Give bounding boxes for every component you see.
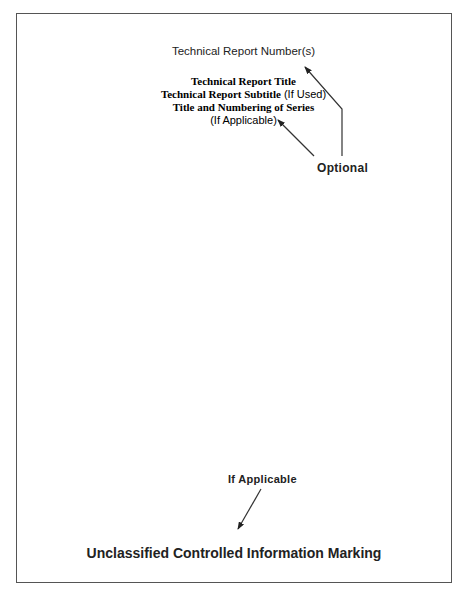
optional-label: Optional xyxy=(317,161,368,175)
report-title: Technical Report Title xyxy=(20,75,467,88)
series-title: Title and Numbering of Series xyxy=(20,101,467,114)
report-subtitle: Technical Report Subtitle xyxy=(161,88,281,100)
if-applicable-label: If Applicable xyxy=(228,473,297,485)
series-note: (If Applicable) xyxy=(20,114,467,127)
report-number-label: Technical Report Number(s) xyxy=(0,45,467,57)
subtitle-note: (If Used) xyxy=(281,88,326,100)
report-subtitle-line: Technical Report Subtitle (If Used) xyxy=(20,88,467,101)
controlled-information-marking: Unclassified Controlled Information Mark… xyxy=(0,545,467,561)
title-block: Technical Report Title Technical Report … xyxy=(0,75,467,127)
